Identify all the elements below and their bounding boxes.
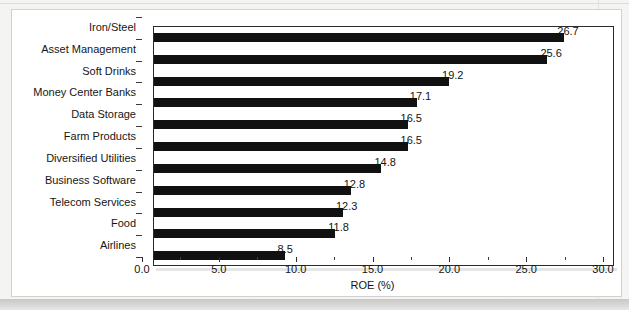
y-axis-category-label: Airlines <box>12 235 136 257</box>
x-axis-tick-label: 30.0 <box>592 263 613 275</box>
x-axis-tick-label: 25.0 <box>515 263 536 275</box>
y-axis-tick <box>136 213 142 214</box>
y-axis-category-labels: Iron/SteelAsset ManagementSoft DrinksMon… <box>12 17 136 257</box>
bar-row <box>154 71 613 93</box>
bar <box>154 120 408 129</box>
bar-value-label: 26.7 <box>557 21 578 42</box>
bar-value-label: 8.5 <box>278 239 293 260</box>
scanned-page-background: Iron/SteelAsset ManagementSoft DrinksMon… <box>0 0 629 310</box>
y-axis-tick <box>136 61 142 62</box>
x-axis-minor-tick <box>180 257 181 260</box>
bar <box>154 164 381 173</box>
y-axis-tick <box>136 170 142 171</box>
y-axis-category-label: Money Center Banks <box>12 82 136 104</box>
bar <box>154 208 343 217</box>
y-axis-tick <box>136 126 142 127</box>
y-axis-tick <box>136 82 142 83</box>
y-axis-tick <box>136 235 142 236</box>
x-axis-tick-label: 5.0 <box>211 263 226 275</box>
x-axis-minor-tick <box>411 257 412 260</box>
scan-artifact-top-line <box>0 3 629 4</box>
y-axis-tick <box>136 104 142 105</box>
x-axis-tick-label: 0.0 <box>134 263 149 275</box>
y-axis-category-label: Asset Management <box>12 39 136 61</box>
x-axis-tick-label: 15.0 <box>362 263 383 275</box>
bar-value-label: 12.8 <box>344 174 365 195</box>
y-axis-category-label: Food <box>12 213 136 235</box>
x-axis-major-tick <box>603 257 604 262</box>
y-axis-category-label: Diversified Utilities <box>12 148 136 170</box>
y-axis-category-label: Business Software <box>12 170 136 192</box>
bar-row <box>154 180 613 202</box>
bar <box>154 55 547 64</box>
bar <box>154 77 449 86</box>
y-axis-category-label: Iron/Steel <box>12 17 136 39</box>
bar <box>154 142 408 151</box>
y-axis-tick <box>136 148 142 149</box>
bar-row <box>154 223 613 245</box>
scan-artifact-bottom-band <box>0 299 629 310</box>
bar-value-label: 12.3 <box>336 196 357 217</box>
x-axis-minor-tick <box>488 257 489 260</box>
y-axis-category-label: Data Storage <box>12 104 136 126</box>
x-axis-minor-tick <box>257 257 258 260</box>
bar-value-label: 17.1 <box>410 86 431 107</box>
y-axis-tick <box>136 39 142 40</box>
figure-frame: Iron/SteelAsset ManagementSoft DrinksMon… <box>11 9 622 297</box>
bar-value-label: 14.8 <box>374 152 395 173</box>
x-axis-major-tick <box>296 257 297 262</box>
y-axis-category-label: Farm Products <box>12 126 136 148</box>
bar-value-label: 11.8 <box>328 217 349 238</box>
bar <box>154 229 335 238</box>
y-axis-category-label: Soft Drinks <box>12 61 136 83</box>
x-axis-tick-label: 20.0 <box>439 263 460 275</box>
x-axis-major-tick <box>526 257 527 262</box>
y-axis-category-label: Telecom Services <box>12 192 136 214</box>
bar-value-label: 25.6 <box>540 43 561 64</box>
x-axis-major-tick <box>219 257 220 262</box>
bar-row <box>154 202 613 224</box>
x-axis-tick-label: 10.0 <box>285 263 306 275</box>
x-axis-title: ROE (%) <box>142 279 603 291</box>
y-axis-tick <box>136 192 142 193</box>
bar-row <box>154 114 613 136</box>
bar <box>154 33 564 42</box>
bar <box>154 186 351 195</box>
bar-value-label: 19.2 <box>442 65 463 86</box>
x-axis-minor-tick <box>565 257 566 260</box>
x-axis-major-tick <box>142 257 143 262</box>
bar-value-label: 16.5 <box>401 108 422 129</box>
bar-row <box>154 92 613 114</box>
x-axis-major-tick <box>373 257 374 262</box>
bar-value-label: 16.5 <box>401 130 422 151</box>
y-axis-tick <box>136 17 142 18</box>
x-axis-minor-tick <box>334 257 335 260</box>
x-axis-major-tick <box>449 257 450 262</box>
bar <box>154 98 417 107</box>
